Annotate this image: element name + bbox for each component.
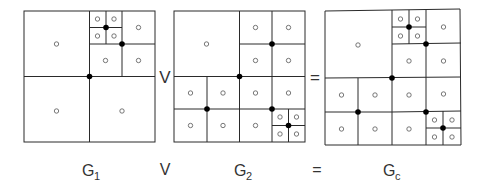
grid-gc [325, 9, 461, 145]
grid-g1 [24, 11, 155, 142]
label-join: V [160, 161, 171, 178]
svg-text:c: c [395, 170, 401, 182]
svg-text:G: G [82, 162, 94, 179]
svg-text:G: G [234, 162, 246, 179]
svg-text:2: 2 [246, 170, 252, 182]
label-equals: = [312, 161, 321, 178]
svg-text:G: G [383, 162, 395, 179]
g1-cell-centers [54, 17, 140, 113]
svg-text:1: 1 [94, 170, 100, 182]
label-gc: G c [383, 162, 401, 182]
grid-join-diagram: V [0, 0, 485, 190]
join-operator: V [159, 68, 171, 87]
g2-cell-centers [188, 25, 298, 136]
label-g2: G 2 [234, 162, 252, 182]
grid-g2 [174, 11, 305, 142]
equals-operator: = [310, 68, 320, 87]
label-g1: G 1 [82, 162, 100, 182]
